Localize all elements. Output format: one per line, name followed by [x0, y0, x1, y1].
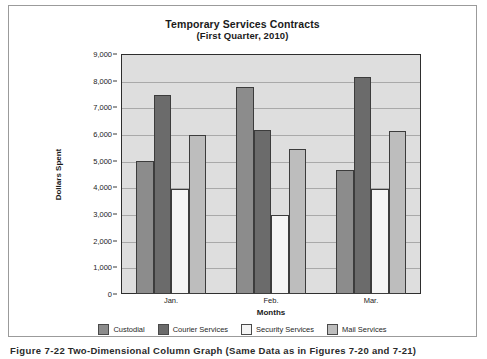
- chart-legend: CustodialCourier ServicesSecurity Servic…: [9, 324, 476, 335]
- gridline: [122, 242, 420, 243]
- legend-item[interactable]: Courier Services: [158, 324, 228, 335]
- y-tick-mark: [113, 54, 117, 55]
- gridline: [122, 215, 420, 216]
- y-axis-tick-labels: 9,0008,0007,0006,0005,0004,0003,0002,000…: [69, 54, 117, 294]
- legend-label: Security Services: [256, 325, 314, 334]
- figure-caption: Figure 7-22 Two-Dimensional Column Graph…: [10, 345, 480, 356]
- y-tick-mark: [113, 80, 117, 81]
- y-tick-label: 9,000: [93, 50, 112, 59]
- chart-title: Temporary Services Contracts: [9, 18, 476, 30]
- gridlines: [122, 55, 420, 293]
- legend-swatch-icon: [327, 324, 338, 335]
- gridline: [122, 268, 420, 269]
- legend-label: Custodial: [113, 325, 144, 334]
- gridline: [122, 108, 420, 109]
- figure-frame: Temporary Services Contracts (First Quar…: [8, 5, 477, 337]
- y-tick-label: 6,000: [93, 130, 112, 139]
- y-tick-mark: [113, 294, 117, 295]
- chart-title-block: Temporary Services Contracts (First Quar…: [9, 18, 476, 42]
- y-tick-mark: [113, 240, 117, 241]
- y-tick-mark: [113, 267, 117, 268]
- y-tick-label: 2,000: [93, 236, 112, 245]
- y-tick-mark: [113, 187, 117, 188]
- legend-swatch-icon: [241, 324, 252, 335]
- legend-swatch-icon: [98, 324, 109, 335]
- y-tick-label: 1,000: [93, 263, 112, 272]
- gridline: [122, 188, 420, 189]
- figure-caption-number: Figure 7-22: [10, 345, 65, 356]
- y-axis-title: Dollars Spent: [53, 54, 65, 294]
- figure-caption-text: Two-Dimensional Column Graph (Same Data …: [68, 345, 417, 356]
- x-axis-tick-labels: Jan.Feb.Mar.: [121, 296, 421, 308]
- plot-area: [121, 54, 421, 294]
- y-tick-label: 4,000: [93, 183, 112, 192]
- legend-label: Mail Services: [342, 325, 387, 334]
- y-tick-mark: [113, 107, 117, 108]
- legend-item[interactable]: Custodial: [98, 324, 144, 335]
- chart-subtitle: (First Quarter, 2010): [9, 30, 476, 42]
- y-tick-label: 3,000: [93, 210, 112, 219]
- legend-swatch-icon: [158, 324, 169, 335]
- x-tick-label: Feb.: [263, 296, 278, 305]
- y-tick-label: 0: [108, 290, 112, 299]
- gridline: [122, 135, 420, 136]
- x-tick-label: Jan.: [164, 296, 178, 305]
- y-tick-label: 5,000: [93, 156, 112, 165]
- gridline: [122, 162, 420, 163]
- legend-item[interactable]: Mail Services: [327, 324, 387, 335]
- y-tick-label: 7,000: [93, 103, 112, 112]
- y-tick-mark: [113, 214, 117, 215]
- x-tick-label: Mar.: [364, 296, 379, 305]
- x-axis-title: Months: [121, 308, 421, 317]
- gridline: [122, 82, 420, 83]
- y-tick-label: 8,000: [93, 76, 112, 85]
- y-axis-title-label: Dollars Spent: [55, 148, 64, 200]
- legend-item[interactable]: Security Services: [241, 324, 314, 335]
- y-tick-mark: [113, 134, 117, 135]
- y-tick-mark: [113, 160, 117, 161]
- legend-label: Courier Services: [173, 325, 228, 334]
